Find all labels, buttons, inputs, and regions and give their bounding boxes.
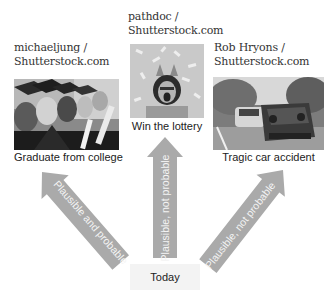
arrows-layer: Plausible and probable Plausible, not pr… bbox=[0, 0, 331, 304]
arrow-accident: Plausible, not probable bbox=[193, 159, 297, 278]
arrow-label-accident: Plausible, not probable bbox=[202, 179, 277, 271]
arrow-lottery: Plausible, not probable bbox=[147, 137, 183, 261]
today-box: Today bbox=[130, 264, 200, 290]
arrow-graduate: Plausible and probable bbox=[28, 160, 136, 277]
arrow-label-lottery: Plausible, not probable bbox=[159, 154, 171, 261]
arrow-label-graduate: Plausible and probable bbox=[51, 178, 130, 267]
today-label: Today bbox=[150, 271, 179, 283]
